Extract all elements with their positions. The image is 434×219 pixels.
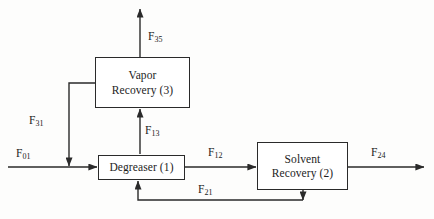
stream-symbol-f24: F — [371, 146, 378, 158]
process-unit-vapor-recovery-label: Vapor Recovery (3) — [109, 68, 177, 96]
stream-subscript-f13: 13 — [152, 129, 160, 138]
stream-label-f35: F35 — [148, 30, 163, 42]
stream-subscript-f21: 21 — [205, 188, 213, 197]
stream-label-f31: F31 — [29, 114, 44, 126]
stream-label-f13: F13 — [145, 124, 160, 136]
stream-subscript-f01: 01 — [23, 152, 31, 161]
stream-label-f21: F21 — [198, 183, 213, 195]
stream-symbol-f13: F — [145, 124, 152, 136]
stream-symbol-f21: F — [198, 183, 205, 195]
process-unit-solvent-recovery-label: Solvent Recovery (2) — [269, 152, 337, 180]
process-flow-diagram: Vapor Recovery (3) Degreaser (1) Solvent… — [0, 0, 434, 219]
stream-subscript-f12: 12 — [215, 151, 223, 160]
process-unit-degreaser-label: Degreaser (1) — [106, 160, 176, 174]
stream-symbol-f35: F — [148, 30, 155, 42]
stream-label-f12: F12 — [208, 146, 223, 158]
stream-symbol-f12: F — [208, 146, 215, 158]
stream-label-f24: F24 — [371, 146, 386, 158]
stream-line-f31 — [69, 83, 95, 166]
stream-subscript-f35: 35 — [155, 35, 163, 44]
stream-label-f01: F01 — [16, 147, 31, 159]
process-unit-vapor-recovery: Vapor Recovery (3) — [95, 57, 190, 108]
process-unit-solvent-recovery: Solvent Recovery (2) — [257, 142, 348, 190]
stream-subscript-f31: 31 — [36, 119, 44, 128]
stream-symbol-f01: F — [16, 147, 23, 159]
flow-lines-layer — [0, 0, 434, 219]
process-unit-degreaser: Degreaser (1) — [98, 155, 185, 180]
stream-symbol-f31: F — [29, 114, 36, 126]
stream-subscript-f24: 24 — [378, 151, 386, 160]
